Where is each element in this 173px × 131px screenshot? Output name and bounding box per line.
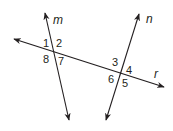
angle-label-6: 6 <box>108 73 114 85</box>
line-label-n: n <box>146 12 153 26</box>
angle-label-5: 5 <box>122 77 128 89</box>
angle-label-4: 4 <box>126 64 132 76</box>
angle-label-7: 7 <box>58 55 64 67</box>
angle-label-2: 2 <box>56 37 62 49</box>
line-labels: m n r <box>53 12 159 81</box>
diagram-canvas: m n r 1 2 8 7 3 4 6 5 <box>0 0 173 131</box>
line-n <box>106 14 139 120</box>
line-r <box>14 39 164 87</box>
line-m <box>45 13 69 120</box>
line-label-r: r <box>154 67 159 81</box>
angle-label-8: 8 <box>43 53 49 65</box>
angle-label-3: 3 <box>112 56 118 68</box>
line-label-m: m <box>53 13 63 27</box>
angle-diagram: m n r 1 2 8 7 3 4 6 5 <box>0 0 173 131</box>
angle-label-1: 1 <box>43 37 49 49</box>
